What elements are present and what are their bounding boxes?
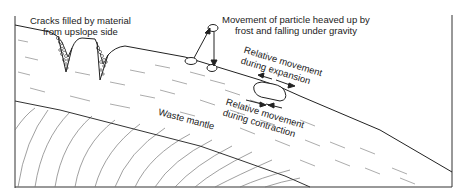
label-particle-line1: Movement of particle heaved up by bbox=[222, 14, 370, 25]
particle-start bbox=[185, 58, 197, 65]
label-cracks-line1: Cracks filled by material bbox=[30, 15, 131, 26]
particle-end bbox=[207, 65, 217, 72]
crack-fill bbox=[56, 36, 107, 75]
label-particle-movement: Movement of particle heaved up by frost … bbox=[222, 14, 370, 36]
label-cracks-line2: from upslope side bbox=[30, 26, 131, 37]
large-clast bbox=[254, 82, 286, 101]
label-cracks: Cracks filled by material from upslope s… bbox=[30, 15, 131, 37]
label-particle-line2: frost and falling under gravity bbox=[222, 25, 370, 36]
